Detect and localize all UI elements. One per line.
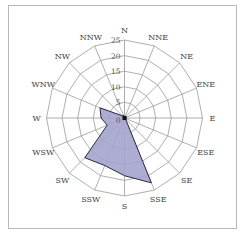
direction-label-ese: ESE <box>197 148 214 157</box>
direction-label-nnw: NNW <box>80 33 103 42</box>
radial-tick-10: 10 <box>111 83 121 92</box>
radial-tick-20: 20 <box>111 52 121 61</box>
direction-label-wnw: WNW <box>31 80 55 89</box>
direction-label-sw: SW <box>55 176 69 185</box>
direction-label-nw: NW <box>55 52 71 61</box>
direction-label-e: E <box>210 114 216 123</box>
direction-label-sse: SSE <box>150 195 167 204</box>
direction-label-nne: NNE <box>148 33 168 42</box>
radial-tick-25: 25 <box>111 36 121 45</box>
direction-label-se: SE <box>181 176 192 185</box>
direction-label-n: N <box>121 26 128 35</box>
radial-tick-labels: 0510152025 <box>111 36 121 125</box>
direction-label-s: S <box>122 202 127 211</box>
direction-label-wsw: WSW <box>32 148 55 157</box>
center-marker <box>123 116 127 120</box>
direction-label-ssw: SSW <box>81 195 101 204</box>
direction-label-ene: ENE <box>196 80 215 89</box>
radial-tick-5: 5 <box>116 98 121 107</box>
radial-tick-0: 0 <box>116 116 121 125</box>
wind-rose-chart: 0510152025 NNNENEENEEESESESSESSSWSWWSWWW… <box>0 0 244 236</box>
direction-label-ne: NE <box>180 52 193 61</box>
spoke-line <box>125 63 180 118</box>
radial-tick-15: 15 <box>111 67 121 76</box>
direction-label-w: W <box>32 114 41 123</box>
